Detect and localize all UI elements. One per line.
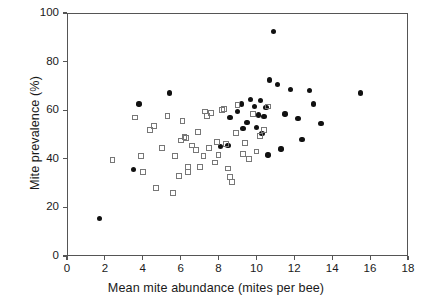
data-point-open — [197, 164, 203, 170]
data-point-open — [183, 135, 189, 141]
data-point-filled — [265, 152, 270, 157]
data-point-open — [193, 147, 199, 153]
data-point-filled — [167, 90, 172, 95]
y-tick-mark — [63, 110, 67, 111]
data-point-open — [180, 118, 186, 124]
data-point-open — [229, 179, 235, 185]
y-tick-mark — [63, 61, 67, 62]
x-tick-label: 4 — [123, 262, 163, 274]
data-point-filled — [271, 29, 276, 34]
x-tick-mark — [407, 256, 408, 260]
data-point-filled — [282, 111, 287, 116]
data-point-open — [265, 104, 271, 110]
data-point-open — [225, 166, 231, 172]
x-tick-mark — [180, 256, 181, 260]
x-tick-mark — [218, 256, 219, 260]
data-point-open — [261, 127, 267, 133]
y-tick-mark — [63, 207, 67, 208]
data-point-filled — [278, 146, 283, 151]
data-point-filled — [136, 101, 141, 106]
scatter-chart-figure: 024681012141618020406080100 Mean mite ab… — [0, 0, 432, 307]
data-point-open — [208, 110, 214, 116]
x-tick-mark — [332, 256, 333, 260]
data-point-open — [254, 149, 260, 155]
x-axis-title: Mean mite abundance (mites per bee) — [0, 281, 432, 295]
y-tick-mark — [63, 255, 67, 256]
data-point-open — [221, 106, 227, 112]
data-point-open — [140, 169, 146, 175]
y-tick-mark — [63, 158, 67, 159]
data-point-open — [233, 130, 239, 136]
x-tick-mark — [66, 256, 67, 260]
data-point-open — [176, 173, 182, 179]
x-tick-label: 12 — [274, 262, 314, 274]
x-tick-label: 14 — [312, 262, 352, 274]
data-point-filled — [267, 77, 272, 82]
data-point-filled — [261, 114, 266, 119]
y-axis-title: Mite prevalence (%) — [28, 13, 42, 253]
x-tick-mark — [142, 256, 143, 260]
data-point-filled — [240, 126, 245, 131]
x-tick-mark — [256, 256, 257, 260]
data-point-open — [165, 113, 171, 119]
data-point-open — [110, 157, 116, 163]
y-tick-mark — [63, 12, 67, 13]
data-point-filled — [256, 112, 261, 117]
data-point-open — [172, 153, 178, 159]
x-tick-label: 6 — [161, 262, 201, 274]
data-point-open — [223, 141, 229, 147]
data-point-filled — [227, 115, 232, 120]
data-point-open — [170, 190, 176, 196]
data-point-open — [257, 133, 263, 139]
data-point-open — [206, 145, 212, 151]
data-point-filled — [254, 125, 259, 130]
data-point-open — [195, 129, 201, 135]
x-tick-label: 16 — [350, 262, 390, 274]
x-tick-mark — [370, 256, 371, 260]
data-point-open — [153, 185, 159, 191]
data-point-filled — [299, 137, 304, 142]
x-tick-label: 0 — [47, 262, 87, 274]
data-point-open — [151, 123, 157, 129]
data-point-open — [246, 156, 252, 162]
data-point-filled — [258, 98, 263, 103]
data-point-filled — [311, 101, 316, 106]
data-point-open — [242, 140, 248, 146]
data-point-open — [250, 111, 256, 117]
x-tick-label: 18 — [388, 262, 428, 274]
x-tick-mark — [104, 256, 105, 260]
data-point-open — [138, 153, 144, 159]
data-point-open — [212, 160, 218, 166]
data-point-filled — [318, 121, 323, 126]
data-point-filled — [244, 120, 249, 125]
x-tick-label: 2 — [85, 262, 125, 274]
data-point-open — [159, 145, 165, 151]
data-point-open — [132, 115, 138, 121]
data-point-open — [185, 164, 191, 170]
data-point-open — [235, 102, 241, 108]
x-tick-label: 8 — [199, 262, 239, 274]
x-tick-label: 10 — [236, 262, 276, 274]
x-tick-mark — [294, 256, 295, 260]
data-point-open — [216, 152, 222, 158]
data-point-open — [201, 153, 207, 159]
data-point-open — [214, 139, 220, 145]
data-point-filled — [97, 216, 102, 221]
